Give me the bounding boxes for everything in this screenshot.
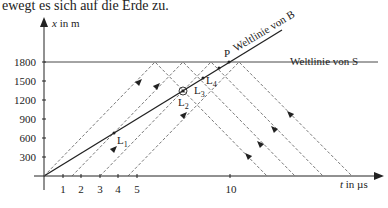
x-tick-3: 3: [97, 183, 103, 195]
point-L3: [202, 77, 205, 80]
worldline-s-label: Weltlinie von S: [290, 55, 358, 67]
arrow-down-icon: [255, 139, 264, 148]
arrow-down-icon: [269, 124, 278, 133]
x-tick-2: 2: [78, 183, 84, 195]
arrow-down-icon: [243, 151, 252, 160]
x-axis: [34, 172, 384, 180]
x-tick-4: 4: [115, 183, 121, 195]
label-L3: L3: [194, 84, 205, 99]
x-axis-label: t in µs: [340, 178, 368, 190]
light-signal-2: [72, 62, 295, 176]
point-P: [228, 61, 231, 64]
x-tick-10: 10: [226, 183, 238, 195]
light-signal-1: [44, 62, 267, 176]
y-tick-900: 900: [20, 113, 37, 125]
worldline-b-label: Weltlinie von B: [231, 8, 297, 54]
arrow-up-icon: [153, 81, 162, 90]
y-axis-arrow-icon: [40, 17, 48, 27]
point-L1: [113, 132, 116, 135]
x-axis-arrow-icon: [374, 172, 384, 180]
y-tick-600: 600: [20, 132, 37, 144]
spacetime-diagram: 300 600 900 1200 1500 1800 1 2 3 4 5 10 …: [0, 0, 388, 208]
label-P: P: [224, 47, 230, 59]
y-tick-1200: 1200: [14, 94, 37, 106]
arrowheads-down: [243, 109, 294, 160]
y-axis-label: x in m: [51, 17, 80, 29]
point-L2: [181, 89, 184, 92]
y-tick-1800: 1800: [14, 56, 37, 68]
light-signal-4: [128, 62, 352, 176]
x-tick-5: 5: [134, 183, 140, 195]
label-L1: L1: [117, 134, 128, 149]
point-L4: [218, 67, 221, 70]
y-tick-labels: 300 600 900 1200 1500 1800: [14, 56, 37, 163]
y-tick-300: 300: [20, 151, 37, 163]
x-tick-1: 1: [60, 183, 66, 195]
y-axis: [40, 17, 48, 190]
light-signals: [44, 62, 352, 176]
y-tick-1500: 1500: [14, 75, 37, 87]
label-L4: L4: [206, 74, 217, 89]
label-L2: L2: [178, 96, 189, 111]
x-tick-labels: 1 2 3 4 5 10: [60, 183, 237, 195]
